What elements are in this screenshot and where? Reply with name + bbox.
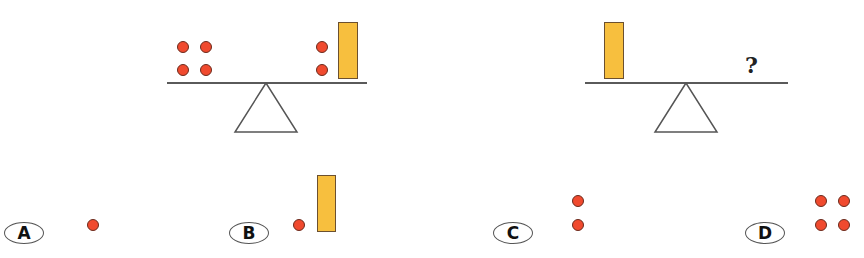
block (604, 22, 624, 79)
ball (177, 41, 189, 53)
block (338, 22, 358, 79)
option-d-label[interactable]: D (745, 222, 785, 244)
ball (316, 41, 328, 53)
ball (572, 195, 584, 207)
ball (572, 219, 584, 231)
ball (316, 64, 328, 76)
ball (87, 219, 99, 231)
ball (177, 64, 189, 76)
fulcrum-triangle (233, 82, 299, 134)
option-a-label[interactable]: A (4, 222, 44, 244)
ball (815, 195, 827, 207)
ball (200, 41, 212, 53)
ball (200, 64, 212, 76)
option-b-label[interactable]: B (229, 222, 269, 244)
ball (815, 219, 827, 231)
ball (838, 219, 850, 231)
ball (838, 195, 850, 207)
question-mark: ? (745, 52, 758, 78)
fulcrum-triangle (653, 82, 719, 134)
option-c-label[interactable]: C (493, 222, 533, 244)
ball (293, 219, 305, 231)
block (317, 175, 336, 232)
